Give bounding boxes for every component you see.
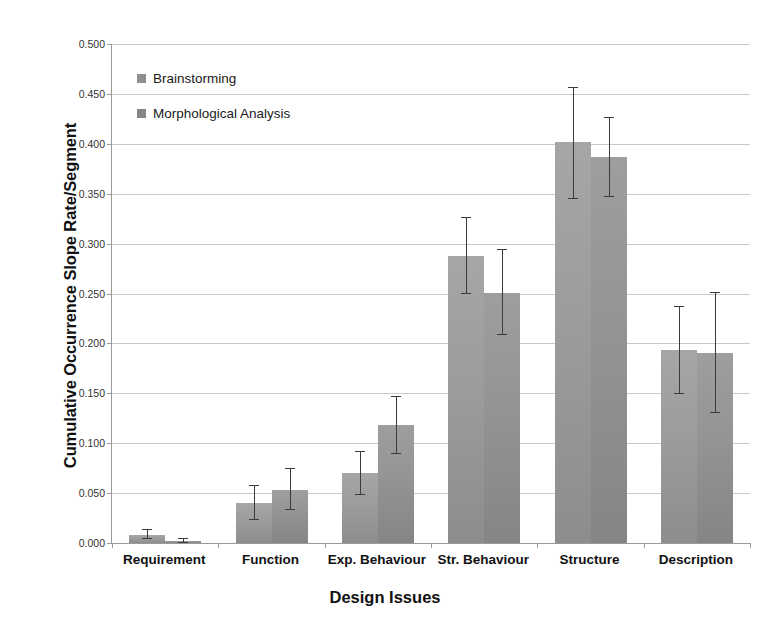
error-bar (178, 538, 188, 543)
x-tick-mark (644, 543, 645, 548)
error-bar (604, 117, 614, 197)
error-bar (568, 87, 578, 199)
error-bar-stem (715, 292, 716, 414)
y-tick-label: 0.350 (79, 188, 105, 200)
y-tick-label: 0.400 (79, 138, 105, 150)
y-tick-label: 0.200 (79, 337, 105, 349)
error-bar-cap-bottom (674, 393, 684, 394)
y-tick-mark (107, 493, 112, 494)
x-category-label: Str. Behaviour (437, 552, 529, 567)
legend-item-morphological-analysis: Morphological Analysis (137, 101, 290, 125)
legend-swatch-icon (137, 109, 146, 118)
gridline (112, 144, 750, 145)
error-bar-cap-top (391, 396, 401, 397)
error-bar-cap-bottom (391, 453, 401, 454)
error-bar (285, 468, 295, 510)
error-bar (142, 529, 152, 539)
gridline (112, 294, 750, 295)
y-tick-mark (107, 194, 112, 195)
y-tick-mark (107, 94, 112, 95)
error-bar-stem (573, 87, 574, 199)
error-bar-cap-bottom (249, 519, 259, 520)
error-bar-cap-top (142, 529, 152, 530)
legend-swatch-icon (137, 74, 146, 83)
error-bar-cap-top (178, 538, 188, 539)
gridline (112, 493, 750, 494)
error-bar-cap-top (568, 87, 578, 88)
legend-label: Brainstorming (153, 71, 236, 86)
gridline (112, 393, 750, 394)
error-bar-cap-bottom (604, 196, 614, 197)
x-tick-mark (112, 543, 113, 548)
error-bar-cap-bottom (285, 509, 295, 510)
x-tick-mark (431, 543, 432, 548)
x-category-label: Exp. Behaviour (328, 552, 426, 567)
bar-structure-brainstorming (555, 142, 591, 543)
error-bar-cap-bottom (710, 412, 720, 413)
y-tick-label: 0.000 (79, 537, 105, 549)
error-bar (391, 396, 401, 454)
y-tick-mark (107, 144, 112, 145)
error-bar-cap-top (461, 217, 471, 218)
gridline (112, 194, 750, 195)
y-tick-mark (107, 393, 112, 394)
error-bar-stem (254, 485, 255, 520)
x-category-label: Structure (559, 552, 619, 567)
x-category-label: Function (242, 552, 299, 567)
x-axis-title: Design Issues (0, 588, 770, 607)
error-bar-cap-top (604, 117, 614, 118)
chart-figure: Cumulative Occurrence Slope Rate/Segment… (0, 0, 770, 631)
x-category-label: Requirement (123, 552, 206, 567)
error-bar (249, 485, 259, 520)
error-bar-stem (679, 306, 680, 394)
y-tick-mark (107, 294, 112, 295)
y-tick-label: 0.250 (79, 288, 105, 300)
error-bar (497, 249, 507, 336)
error-bar-stem (466, 217, 467, 295)
error-bar-stem (360, 451, 361, 495)
bar-structure-morphological-analysis (591, 157, 627, 543)
x-tick-mark (537, 543, 538, 548)
error-bar-cap-top (674, 306, 684, 307)
error-bar (355, 451, 365, 495)
error-bar-cap-bottom (142, 538, 152, 539)
y-tick-label: 0.300 (79, 238, 105, 250)
x-tick-mark (750, 543, 751, 548)
y-tick-mark (107, 343, 112, 344)
bar-str-behaviour-brainstorming (448, 256, 484, 543)
gridline (112, 343, 750, 344)
error-bar-cap-bottom (178, 542, 188, 543)
error-bar-stem (502, 249, 503, 336)
gridline (112, 443, 750, 444)
error-bar-cap-bottom (568, 198, 578, 199)
error-bar-stem (609, 117, 610, 197)
error-bar-cap-top (497, 249, 507, 250)
x-category-label: Description (659, 552, 733, 567)
x-tick-mark (325, 543, 326, 548)
error-bar (674, 306, 684, 394)
y-tick-mark (107, 244, 112, 245)
legend-label: Morphological Analysis (153, 106, 290, 121)
y-tick-label: 0.050 (79, 487, 105, 499)
x-tick-mark (218, 543, 219, 548)
error-bar (461, 217, 471, 295)
error-bar-cap-top (355, 451, 365, 452)
legend-item-brainstorming: Brainstorming (137, 66, 290, 90)
error-bar-stem (396, 396, 397, 454)
y-axis-title: Cumulative Occurrence Slope Rate/Segment (61, 36, 80, 556)
y-tick-label: 0.500 (79, 38, 105, 50)
error-bar (710, 292, 720, 414)
error-bar-cap-bottom (497, 334, 507, 335)
error-bar-cap-bottom (461, 293, 471, 294)
y-tick-mark (107, 44, 112, 45)
gridline (112, 244, 750, 245)
gridline (112, 44, 750, 45)
error-bar-cap-top (249, 485, 259, 486)
error-bar-cap-bottom (355, 494, 365, 495)
y-tick-label: 0.150 (79, 387, 105, 399)
error-bar-stem (290, 468, 291, 510)
chart-legend: Brainstorming Morphological Analysis (137, 66, 290, 136)
error-bar-cap-top (710, 292, 720, 293)
y-tick-mark (107, 443, 112, 444)
error-bar-cap-top (285, 468, 295, 469)
